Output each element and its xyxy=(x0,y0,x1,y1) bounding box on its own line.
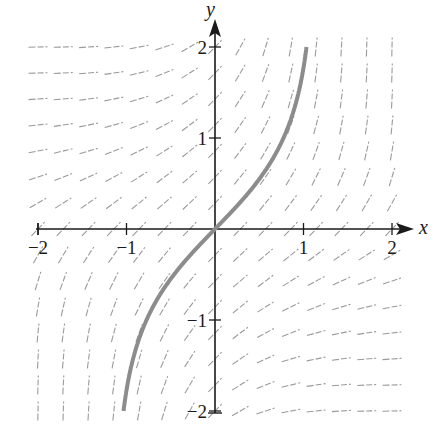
slope-segment xyxy=(182,119,197,130)
slope-segment xyxy=(233,249,247,262)
slope-segment xyxy=(161,376,168,394)
slope-segment xyxy=(35,272,41,290)
x-tick-label: 2 xyxy=(387,237,397,258)
slope-segment xyxy=(257,408,275,414)
slope-segment xyxy=(110,273,119,290)
slope-segment xyxy=(332,331,351,335)
slope-segment xyxy=(155,44,173,50)
slope-segment xyxy=(389,168,395,186)
slope-segment xyxy=(358,305,377,309)
slope-segment xyxy=(341,38,342,57)
slope-segment xyxy=(29,73,48,74)
slope-segment xyxy=(37,324,39,343)
y-tick-label: −1 xyxy=(187,310,207,331)
y-tick-label: 2 xyxy=(198,37,208,58)
slope-segment xyxy=(134,273,144,289)
slope-segment xyxy=(156,95,173,103)
slope-segment xyxy=(80,148,98,153)
slope-segment xyxy=(63,376,64,395)
slope-segment xyxy=(85,272,93,289)
slope-segment xyxy=(232,406,248,416)
slope-segment xyxy=(62,324,65,343)
slope-segment xyxy=(383,358,402,359)
x-axis-label: x xyxy=(418,216,428,238)
slope-segment xyxy=(235,91,245,107)
slope-segment xyxy=(160,325,169,342)
slope-segment xyxy=(340,116,344,135)
slope-segment xyxy=(132,197,147,209)
slope-segment xyxy=(86,298,91,316)
slope-segment xyxy=(60,272,67,290)
slope-segment xyxy=(182,94,198,105)
slope-segment xyxy=(262,90,270,107)
slope-segment xyxy=(38,350,39,369)
slope-segment xyxy=(131,147,148,155)
slope-segment xyxy=(262,64,269,82)
slope-segment xyxy=(283,276,299,286)
slope-segment xyxy=(257,355,274,363)
y-tick-label: −2 xyxy=(187,401,207,422)
slope-segment xyxy=(55,198,71,208)
slope-segment xyxy=(185,351,195,367)
slope-segment xyxy=(83,247,93,263)
slope-segment xyxy=(314,116,319,134)
slope-segment xyxy=(58,247,68,263)
slope-segment xyxy=(366,90,368,109)
slope-segment xyxy=(263,38,269,56)
slope-segment xyxy=(288,90,293,108)
slope-segment xyxy=(79,46,98,47)
slope-segment xyxy=(282,330,300,337)
slope-segment xyxy=(341,64,343,83)
slope-segment xyxy=(156,146,172,156)
slope-segment xyxy=(282,356,300,361)
slope-segment xyxy=(29,98,48,99)
slope-segment xyxy=(54,73,73,74)
slope-segment xyxy=(157,197,171,209)
slope-segment xyxy=(258,275,273,286)
slope-segment xyxy=(383,278,401,284)
slope-segment xyxy=(332,384,351,386)
slope-segment xyxy=(234,170,246,185)
slope-segment xyxy=(105,148,123,155)
slope-segment xyxy=(54,124,73,127)
slope-segment xyxy=(183,197,197,210)
slope-segment xyxy=(235,143,247,158)
slope-segment xyxy=(29,124,48,126)
slope-segment xyxy=(113,376,116,395)
slope-segment xyxy=(383,305,402,308)
slope-segment xyxy=(87,324,91,343)
slope-segment xyxy=(307,331,325,336)
slope-segment xyxy=(339,142,344,160)
slope-segment xyxy=(312,169,321,186)
slope-segment xyxy=(357,332,376,335)
slope-segment xyxy=(233,275,247,287)
slope-segment xyxy=(315,38,317,57)
slope-segment xyxy=(130,96,148,101)
slope-segment xyxy=(387,195,396,212)
slope-segment xyxy=(282,303,299,311)
slope-segment xyxy=(333,277,350,285)
slope-segment xyxy=(313,142,320,160)
slope-segment xyxy=(54,98,73,100)
slope-segment xyxy=(30,198,46,208)
slope-segment xyxy=(87,350,89,369)
y-axis-label: y xyxy=(204,0,215,21)
slope-segment xyxy=(364,168,371,186)
slope-segment xyxy=(183,171,197,183)
slope-segment xyxy=(106,197,121,208)
slope-segment xyxy=(233,301,248,313)
slope-segment xyxy=(104,46,123,48)
slope-segment xyxy=(137,376,141,395)
slope-segment xyxy=(63,350,65,369)
y-tick-label: 1 xyxy=(198,128,208,149)
slope-segment xyxy=(162,402,168,420)
slope-segment xyxy=(105,123,123,128)
slope-segment xyxy=(308,277,325,286)
slope-segment xyxy=(79,123,98,127)
slope-segment xyxy=(88,402,89,421)
slope-segment xyxy=(307,384,326,387)
slope-segment xyxy=(79,98,98,101)
slope-segment xyxy=(61,298,65,317)
slope-segment xyxy=(88,376,90,395)
slope-segment xyxy=(233,327,248,338)
